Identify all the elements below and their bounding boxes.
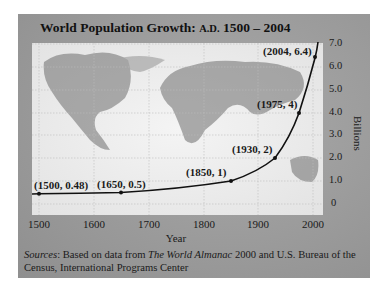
data-point-1850 xyxy=(229,179,233,183)
data-point-1975 xyxy=(297,111,301,115)
point-label-1975: (1975, 4) xyxy=(257,98,298,111)
point-label-1930: (1930, 2) xyxy=(232,143,273,156)
y-tick-0: 0 xyxy=(331,197,336,208)
data-point-1650 xyxy=(119,191,123,195)
source-publication: The World Almanac xyxy=(148,249,232,260)
y-tick-3: 3.0 xyxy=(329,128,342,139)
x-tick-1600: 1600 xyxy=(83,218,105,230)
x-tick-1500: 1500 xyxy=(28,218,50,230)
point-label-2004: (2004, 6.4) xyxy=(263,45,312,58)
y-tick-6: 6.0 xyxy=(329,60,342,71)
source-note: Sources: Based on data from The World Al… xyxy=(24,248,364,274)
y-tick-2: 2.0 xyxy=(329,151,342,162)
world-map-background xyxy=(44,52,319,182)
x-tick-1700: 1700 xyxy=(138,218,160,230)
x-tick-1900: 1900 xyxy=(247,218,269,230)
source-prefix: Sources xyxy=(24,249,57,260)
x-tick-2000: 2000 xyxy=(302,218,324,230)
point-label-1650: (1650, 0.5) xyxy=(97,178,146,191)
y-tick-1: 1.0 xyxy=(329,174,342,185)
y-tick-5: 5.0 xyxy=(329,83,342,94)
data-point-2004 xyxy=(313,55,317,59)
x-tick-1800: 1800 xyxy=(193,218,215,230)
x-axis-label: Year xyxy=(166,232,186,244)
y-tick-7: 7.0 xyxy=(329,37,342,48)
point-label-1500: (1500, 0.48) xyxy=(34,179,88,192)
y-axis-label: Billions xyxy=(352,116,364,151)
y-tick-4: 4.0 xyxy=(329,106,342,117)
point-label-1850: (1850, 1) xyxy=(186,166,227,179)
data-point-1930 xyxy=(273,156,277,160)
source-text-1: : Based on data from xyxy=(57,249,148,260)
data-point-1500 xyxy=(37,192,41,196)
